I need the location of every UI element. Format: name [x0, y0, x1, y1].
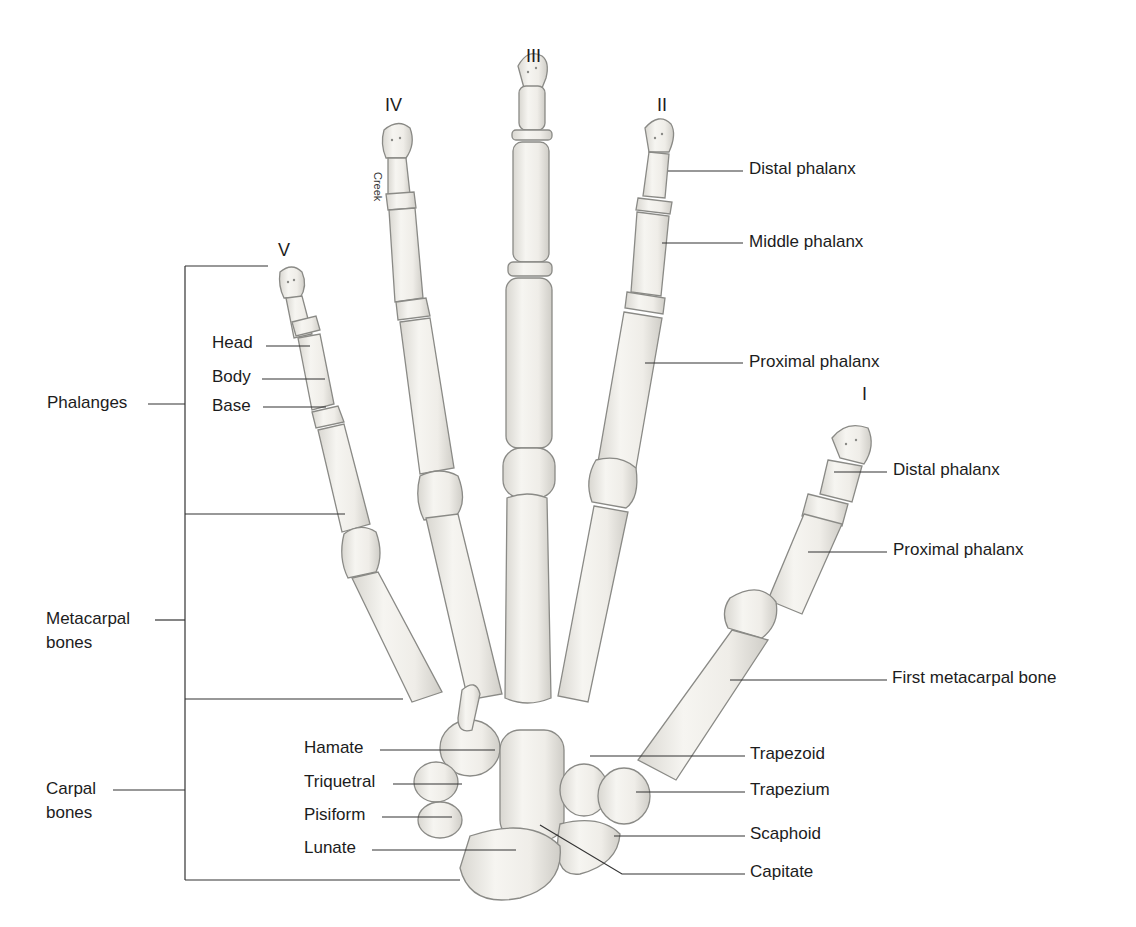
- triquetral-bone: [414, 762, 458, 802]
- finger-label-ii: II: [657, 95, 667, 115]
- pisiform-bone: [418, 802, 462, 838]
- label-base: Base: [212, 396, 251, 416]
- label-proximal-phalanx-thumb: Proximal phalanx: [893, 540, 1023, 560]
- scaphoid-bone: [558, 821, 621, 875]
- group-label-metacarpal-1: Metacarpal: [46, 609, 130, 629]
- capitate-bone: [500, 730, 564, 840]
- label-distal-phalanx-thumb: Distal phalanx: [893, 460, 1000, 480]
- bone-texture: [287, 67, 857, 445]
- label-pisiform: Pisiform: [304, 805, 365, 825]
- finger-label-v: V: [278, 240, 290, 260]
- label-capitate: Capitate: [750, 862, 813, 882]
- hand-bones-diagram: III IV II V I Creek Phalanges Metacarpal…: [0, 0, 1136, 927]
- label-proximal-phalanx-ii: Proximal phalanx: [749, 352, 879, 372]
- label-hamate: Hamate: [304, 738, 364, 758]
- label-first-metacarpal: First metacarpal bone: [892, 668, 1056, 688]
- carpal-bones: [414, 685, 650, 900]
- finger-iii-bones: [503, 54, 555, 703]
- finger-ii-bones: [558, 119, 674, 702]
- finger-label-i: I: [862, 384, 867, 404]
- finger-i-bones: [638, 426, 871, 780]
- label-lunate: Lunate: [304, 838, 356, 858]
- label-scaphoid: Scaphoid: [750, 824, 821, 844]
- label-triquetral: Triquetral: [304, 772, 375, 792]
- label-trapezoid: Trapezoid: [750, 744, 825, 764]
- group-label-carpal-1: Carpal: [46, 779, 96, 799]
- label-distal-phalanx-ii: Distal phalanx: [749, 159, 856, 179]
- label-middle-phalanx-ii: Middle phalanx: [749, 232, 863, 252]
- group-label-carpal-2: bones: [46, 803, 92, 823]
- lunate-bone: [460, 828, 560, 900]
- label-trapezium: Trapezium: [750, 780, 830, 800]
- trapezium-bone: [598, 768, 650, 824]
- group-label-phalanges: Phalanges: [47, 393, 127, 413]
- label-head: Head: [212, 333, 253, 353]
- finger-label-iv: IV: [385, 95, 402, 115]
- watermark-text: Creek: [372, 172, 384, 201]
- group-label-metacarpal-2: bones: [46, 633, 92, 653]
- label-body: Body: [212, 367, 251, 387]
- finger-label-iii: III: [526, 46, 541, 66]
